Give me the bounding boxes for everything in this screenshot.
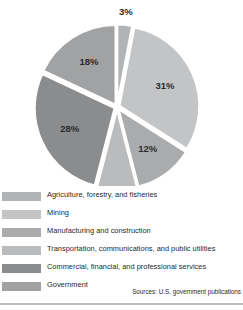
- legend-item[interactable]: Manufacturing and construction: [0, 224, 243, 242]
- legend-item[interactable]: Transportation, communications, and publ…: [0, 242, 243, 260]
- pie-slice-group: [35, 24, 200, 186]
- legend-color-swatch: [2, 228, 41, 237]
- legend-item[interactable]: Commercial, financial, and professional …: [0, 260, 243, 278]
- pie-slice-label: 18%: [80, 56, 100, 67]
- legend-item-label: Agriculture, forestry, and fisheries: [47, 190, 157, 199]
- legend-color-swatch: [2, 210, 41, 219]
- pie-slice-label: 12%: [138, 143, 158, 154]
- pie-slice-label: 28%: [60, 123, 80, 134]
- source-note: Sources: U.S. government publications: [132, 288, 241, 295]
- legend-item-label: Manufacturing and construction: [47, 226, 151, 235]
- pie-slice-label: 31%: [155, 80, 175, 91]
- legend-color-swatch: [2, 192, 41, 201]
- legend-item-label: Mining: [47, 208, 69, 217]
- legend-item-label: Commercial, financial, and professional …: [47, 262, 206, 271]
- legend-color-swatch: [2, 282, 41, 291]
- legend-item-label: Government: [47, 280, 88, 289]
- pie-slice-label: 3%: [119, 6, 133, 17]
- pie-chart-svg: 3%31%12%8%28%18%: [0, 0, 243, 186]
- bottom-divider: [0, 303, 243, 305]
- chart-legend: Agriculture, forestry, and fisheriesMini…: [0, 188, 243, 296]
- legend-color-swatch: [2, 246, 41, 255]
- legend-item[interactable]: Mining: [0, 206, 243, 224]
- legend-color-swatch: [2, 264, 41, 273]
- legend-item[interactable]: Agriculture, forestry, and fisheries: [0, 188, 243, 206]
- legend-item-label: Transportation, communications, and publ…: [47, 244, 215, 253]
- pie-chart-area: 3%31%12%8%28%18%: [0, 0, 243, 186]
